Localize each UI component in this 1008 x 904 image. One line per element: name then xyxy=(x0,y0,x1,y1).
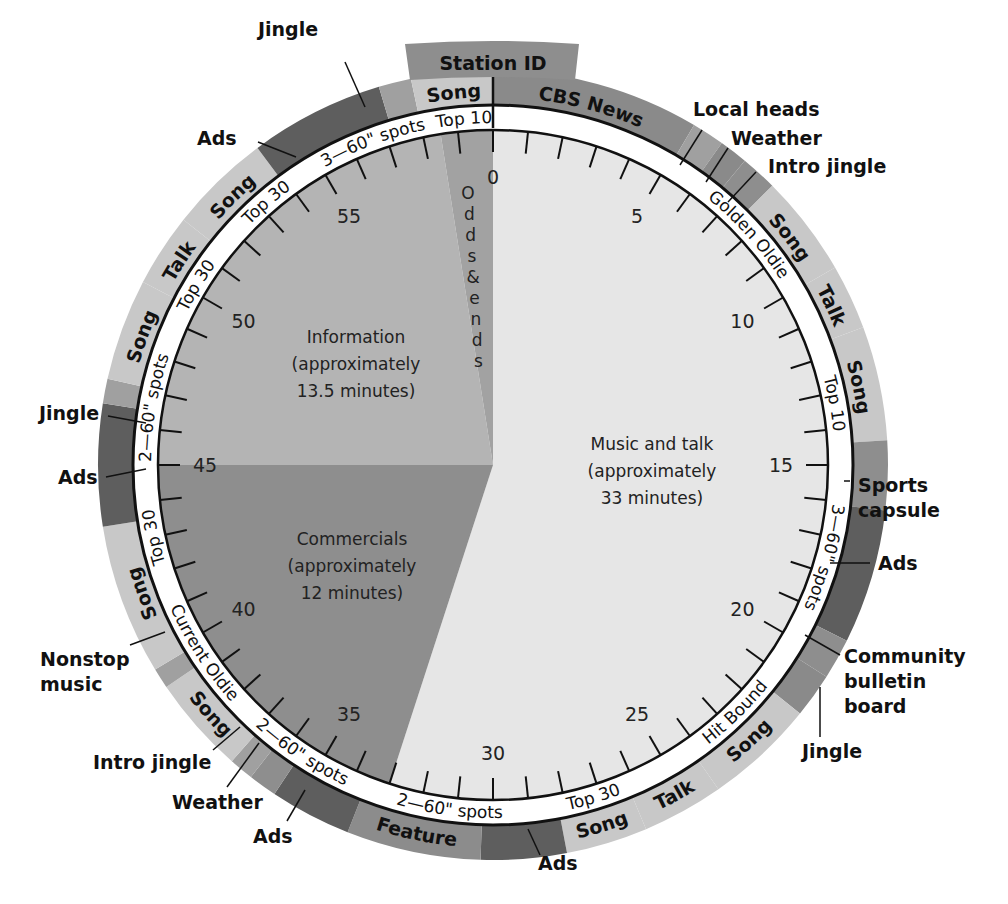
odds-ends-label: O xyxy=(461,183,474,203)
music-talk-label: 33 minutes) xyxy=(601,488,703,508)
callout-community-bulletin-board: Community xyxy=(844,645,966,667)
commercials-label: 12 minutes) xyxy=(301,583,403,603)
callout-ads: Ads xyxy=(253,825,293,847)
callout-jingle: Jingle xyxy=(37,402,99,424)
information-label: Information xyxy=(307,327,405,347)
odds-ends-label: d xyxy=(464,204,475,224)
callout-nonstop-music: Nonstop xyxy=(40,648,130,670)
minute-mark-20: 20 xyxy=(730,598,754,620)
commercials-label: Commercials xyxy=(297,529,408,549)
content-pie xyxy=(158,130,828,800)
callout-intro-jingle: Intro jingle xyxy=(93,751,211,773)
minute-mark-55: 55 xyxy=(337,205,361,227)
minute-mark-35: 35 xyxy=(337,703,361,725)
minute-mark-25: 25 xyxy=(625,703,649,725)
minute-mark-0: 0 xyxy=(487,166,499,188)
callout-jingle: Jingle xyxy=(800,740,862,762)
callout-weather: Weather xyxy=(731,127,822,149)
callout-intro-jingle: Intro jingle xyxy=(768,155,886,177)
callout-ads: Ads xyxy=(878,552,918,574)
callout-sports-capsule: capsule xyxy=(858,499,940,521)
callout-jingle: Jingle xyxy=(256,18,318,40)
callout-ads: Ads xyxy=(197,127,237,149)
callout-ads: Ads xyxy=(538,852,578,874)
commercials-label: (approximately xyxy=(288,556,417,576)
music-talk-label: Music and talk xyxy=(591,434,714,454)
minute-mark-50: 50 xyxy=(231,310,255,332)
minute-mark-10: 10 xyxy=(730,310,754,332)
callout-weather: Weather xyxy=(172,791,263,813)
radio-hour-clock-diagram: 0510152025303540455055 Golden OldieTop 1… xyxy=(0,0,1008,904)
music-talk-label: (approximately xyxy=(588,461,717,481)
odds-ends-label: & xyxy=(467,267,480,287)
odds-ends-label: s xyxy=(474,351,483,371)
minute-mark-5: 5 xyxy=(631,205,643,227)
minute-mark-40: 40 xyxy=(231,598,255,620)
callout-local-heads: Local heads xyxy=(693,98,820,120)
odds-ends-label: e xyxy=(469,288,479,308)
odds-ends-label: s xyxy=(467,246,476,266)
callout-community-bulletin-board: bulletin xyxy=(844,670,926,692)
station-id-label: Station ID xyxy=(439,52,546,74)
information-label: (approximately xyxy=(292,354,421,374)
odds-ends-label: d xyxy=(472,330,483,350)
information-label: 13.5 minutes) xyxy=(297,381,416,401)
minute-mark-15: 15 xyxy=(769,454,793,476)
callout-community-bulletin-board: board xyxy=(844,695,906,717)
callout-ads: Ads xyxy=(58,466,98,488)
odds-ends-label: d xyxy=(465,225,476,245)
callout-sports-capsule: Sports xyxy=(858,474,928,496)
callout-nonstop-music: music xyxy=(40,673,102,695)
odds-ends-label: n xyxy=(470,309,481,329)
minute-mark-30: 30 xyxy=(481,742,505,764)
minute-mark-45: 45 xyxy=(193,454,217,476)
